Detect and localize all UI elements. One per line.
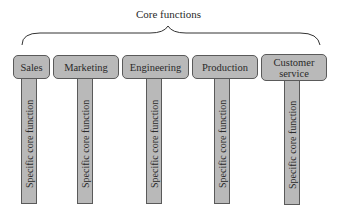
specific-function-bar-sales: Specific core function bbox=[21, 77, 37, 204]
specific-function-label: Specific core function bbox=[217, 100, 228, 188]
function-box-marketing: Marketing bbox=[53, 55, 119, 79]
specific-function-label: Specific core function bbox=[24, 100, 35, 188]
specific-function-bar-customer-service: Specific core function bbox=[284, 79, 300, 205]
function-box-production: Production bbox=[192, 55, 258, 79]
specific-function-bar-marketing: Specific core function bbox=[77, 77, 93, 204]
function-box-engineering: Engineering bbox=[122, 55, 189, 79]
specific-function-bar-production: Specific core function bbox=[214, 77, 230, 204]
function-box-customer-service: Customer service bbox=[261, 54, 327, 81]
specific-function-bar-engineering: Specific core function bbox=[146, 77, 162, 204]
specific-function-label: Specific core function bbox=[149, 100, 160, 188]
function-box-sales: Sales bbox=[13, 55, 50, 79]
brace-icon bbox=[0, 0, 337, 60]
specific-function-label: Specific core function bbox=[80, 100, 91, 188]
specific-function-label: Specific core function bbox=[287, 101, 298, 189]
